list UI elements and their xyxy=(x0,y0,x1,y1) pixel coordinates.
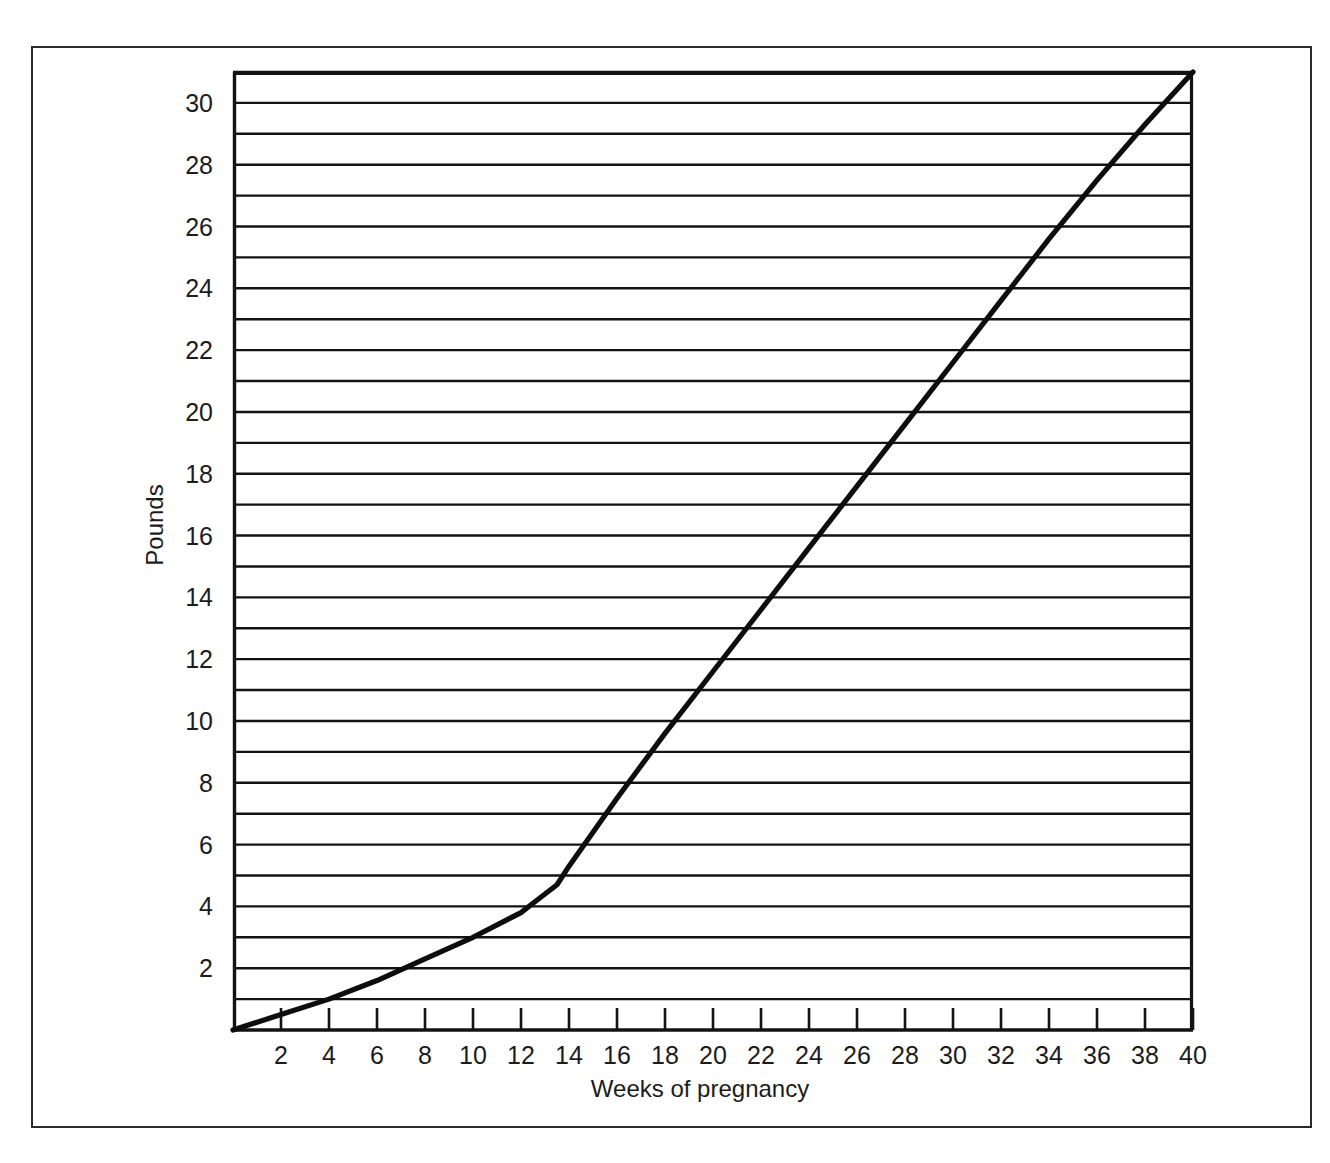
x-tick-label-8: 8 xyxy=(418,1041,432,1069)
y-tick-label-26: 26 xyxy=(185,213,213,241)
x-tick-label-14: 14 xyxy=(555,1041,583,1069)
y-tick-label-30: 30 xyxy=(185,89,213,117)
horizontal-gridlines xyxy=(233,72,1193,999)
y-tick-label-16: 16 xyxy=(185,522,213,550)
y-tick-label-2: 2 xyxy=(199,954,213,982)
y-tick-label-18: 18 xyxy=(185,460,213,488)
x-tick-label-10: 10 xyxy=(459,1041,487,1069)
y-tick-label-24: 24 xyxy=(185,274,213,302)
x-tick-label-22: 22 xyxy=(747,1041,775,1069)
chart-canvas: 246810121416182022242628303234363840 246… xyxy=(0,0,1330,1163)
x-axis-ticks xyxy=(281,1008,1193,1030)
y-tick-label-22: 22 xyxy=(185,336,213,364)
weight-gain-curve xyxy=(233,72,1193,1030)
x-tick-label-28: 28 xyxy=(891,1041,919,1069)
y-tick-label-4: 4 xyxy=(199,892,213,920)
y-tick-label-20: 20 xyxy=(185,398,213,426)
y-tick-label-12: 12 xyxy=(185,645,213,673)
x-tick-label-26: 26 xyxy=(843,1041,871,1069)
y-axis-tick-labels: 24681012141618202224262830 xyxy=(185,89,213,982)
x-axis-title: Weeks of pregnancy xyxy=(591,1075,809,1102)
y-tick-label-28: 28 xyxy=(185,151,213,179)
x-tick-label-20: 20 xyxy=(699,1041,727,1069)
y-tick-label-8: 8 xyxy=(199,769,213,797)
x-tick-label-36: 36 xyxy=(1083,1041,1111,1069)
x-tick-label-4: 4 xyxy=(322,1041,336,1069)
y-tick-label-6: 6 xyxy=(199,831,213,859)
x-tick-label-24: 24 xyxy=(795,1041,823,1069)
x-tick-label-18: 18 xyxy=(651,1041,679,1069)
x-axis-tick-labels: 246810121416182022242628303234363840 xyxy=(274,1041,1207,1069)
x-tick-label-34: 34 xyxy=(1035,1041,1063,1069)
x-tick-label-6: 6 xyxy=(370,1041,384,1069)
weight-gain-chart: 246810121416182022242628303234363840 246… xyxy=(0,0,1330,1163)
y-axis-title: Pounds xyxy=(141,484,168,565)
y-tick-label-10: 10 xyxy=(185,707,213,735)
x-tick-label-40: 40 xyxy=(1179,1041,1207,1069)
x-tick-label-2: 2 xyxy=(274,1041,288,1069)
x-tick-label-12: 12 xyxy=(507,1041,535,1069)
figure-page: 246810121416182022242628303234363840 246… xyxy=(0,0,1330,1163)
y-tick-label-14: 14 xyxy=(185,583,213,611)
x-tick-label-30: 30 xyxy=(939,1041,967,1069)
x-tick-label-16: 16 xyxy=(603,1041,631,1069)
x-tick-label-38: 38 xyxy=(1131,1041,1159,1069)
x-tick-label-32: 32 xyxy=(987,1041,1015,1069)
